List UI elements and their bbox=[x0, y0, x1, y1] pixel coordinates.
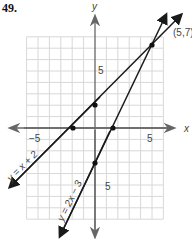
tick-y-neg5: 5 bbox=[105, 181, 111, 192]
coordinate-graph: x y −5 5 5 5 (5,7) y = x + 2 y = 2x − 3 bbox=[0, 0, 192, 239]
tick-x-pos5: 5 bbox=[147, 133, 153, 144]
point-x-intercept-2 bbox=[110, 125, 115, 130]
x-axis-label: x bbox=[183, 123, 190, 134]
intersection-label: (5,7) bbox=[173, 27, 192, 38]
point-y-intercept-1 bbox=[92, 102, 97, 107]
point-intersection bbox=[149, 42, 154, 47]
y-axis-label: y bbox=[91, 1, 98, 12]
equation-label-1: y = x + 2 bbox=[4, 148, 40, 184]
point-y-intercept-2 bbox=[92, 160, 97, 165]
marked-points bbox=[70, 42, 154, 165]
tick-y-pos5: 5 bbox=[98, 65, 104, 76]
point-x-intercept-1 bbox=[70, 125, 75, 130]
tick-x-neg5: −5 bbox=[29, 133, 41, 144]
